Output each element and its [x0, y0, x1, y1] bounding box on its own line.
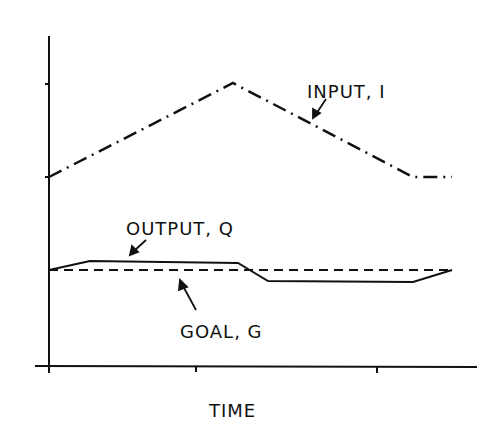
output-label: OUTPUT, Q — [126, 218, 234, 239]
annotation-arrows — [130, 99, 326, 310]
input-label: INPUT, I — [307, 81, 386, 102]
chart-canvas: INPUT, I OUTPUT, Q GOAL, G TIME — [0, 0, 501, 433]
goal-arrow-shaft — [183, 286, 196, 310]
x-axis-label: TIME — [208, 400, 256, 421]
goal-arrow-head-icon — [179, 280, 187, 290]
output-series-line — [49, 261, 452, 282]
x-axis — [35, 366, 477, 367]
input-series-line — [49, 83, 452, 177]
goal-label: GOAL, G — [180, 321, 263, 342]
